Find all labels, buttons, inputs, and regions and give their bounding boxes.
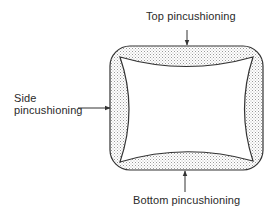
pincushion-raster — [120, 57, 253, 162]
side-pincushioning-label: Side pincushioning — [14, 92, 83, 116]
side-label-line1: Side — [14, 92, 83, 104]
top-pincushioning-label: Top pincushioning — [146, 11, 236, 22]
bottom-pincushioning-label: Bottom pincushioning — [133, 195, 240, 206]
side-label-line2: pincushioning — [14, 104, 83, 116]
